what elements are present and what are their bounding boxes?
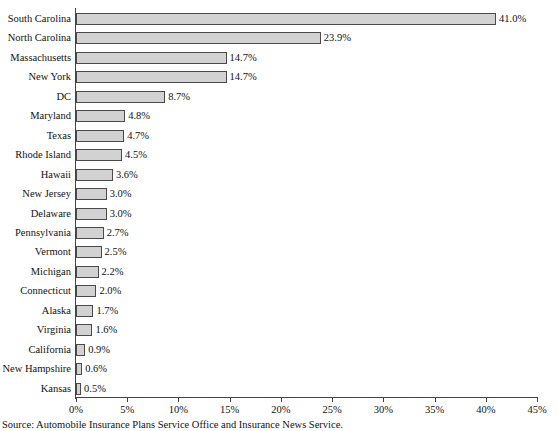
bar-rect — [76, 305, 93, 317]
bar-rect — [76, 363, 82, 375]
x-axis-tick-label: 40% — [466, 403, 506, 416]
source-note: Source: Automobile Insurance Plans Servi… — [2, 418, 343, 431]
bar-rect — [76, 266, 99, 278]
bar-row: North Carolina23.9% — [76, 29, 537, 49]
bar-category-label: Alaska — [0, 304, 71, 318]
bar-category-label: South Carolina — [0, 12, 71, 26]
bar-rect — [76, 52, 227, 64]
bar-value-label: 3.0% — [110, 187, 132, 201]
bar-category-label: Vermont — [0, 245, 71, 259]
bar-value-label: 4.7% — [127, 129, 149, 143]
bar-row: New Hampshire0.6% — [76, 360, 537, 380]
bar-value-label: 3.0% — [110, 207, 132, 221]
bar-chart-figure: South Carolina41.0%North Carolina23.9%Ma… — [0, 0, 557, 431]
bar-row: Connecticut2.0% — [76, 282, 537, 302]
bar-row: California0.9% — [76, 341, 537, 361]
bar-value-label: 2.5% — [105, 245, 127, 259]
bar-row: Alaska1.7% — [76, 302, 537, 322]
bar-value-label: 0.9% — [88, 343, 110, 357]
bar-category-label: Delaware — [0, 207, 71, 221]
bar-row: Kansas0.5% — [76, 380, 537, 400]
bar-row: Michigan2.2% — [76, 263, 537, 283]
bar-category-label: Kansas — [0, 382, 71, 396]
x-axis-tick — [281, 397, 282, 402]
x-axis-tick — [486, 397, 487, 402]
x-axis-tick-label: 10% — [158, 403, 198, 416]
x-axis-tick — [332, 397, 333, 402]
bar-value-label: 4.5% — [125, 148, 147, 162]
x-axis-tick — [230, 397, 231, 402]
bar-value-label: 3.6% — [116, 168, 138, 182]
bar-rect — [76, 169, 113, 181]
bar-value-label: 2.2% — [102, 265, 124, 279]
bar-value-label: 1.6% — [95, 323, 117, 337]
bar-category-label: Texas — [0, 129, 71, 143]
bar-category-label: New York — [0, 70, 71, 84]
bar-value-label: 14.7% — [230, 70, 257, 84]
x-axis-tick-label: 0% — [56, 403, 96, 416]
x-axis-tick-label: 20% — [261, 403, 301, 416]
bar-row: New Jersey3.0% — [76, 185, 537, 205]
bar-rect — [76, 344, 85, 356]
bar-row: New York14.7% — [76, 68, 537, 88]
x-axis-tick-label: 25% — [312, 403, 352, 416]
bar-row: Maryland4.8% — [76, 107, 537, 127]
bar-value-label: 41.0% — [499, 12, 526, 26]
bar-value-label: 23.9% — [324, 31, 351, 45]
x-axis-tick — [435, 397, 436, 402]
x-axis-tick — [76, 397, 77, 402]
bar-rect — [76, 13, 496, 25]
plot-area: South Carolina41.0%North Carolina23.9%Ma… — [76, 10, 537, 397]
bar-rect — [76, 71, 227, 83]
bar-value-label: 0.5% — [84, 382, 106, 396]
bar-value-label: 2.0% — [99, 284, 121, 298]
bar-value-label: 2.7% — [107, 226, 129, 240]
bar-value-label: 8.7% — [168, 90, 190, 104]
bar-rect — [76, 91, 165, 103]
bar-rect — [76, 324, 92, 336]
bar-rect — [76, 110, 125, 122]
bar-row: DC8.7% — [76, 88, 537, 108]
bar-category-label: Connecticut — [0, 284, 71, 298]
x-axis-tick-label: 30% — [363, 403, 403, 416]
bar-value-label: 1.7% — [96, 304, 118, 318]
bar-row: South Carolina41.0% — [76, 10, 537, 30]
bar-rect — [76, 285, 96, 297]
bar-row: Hawaii3.6% — [76, 166, 537, 186]
bar-category-label: Maryland — [0, 109, 71, 123]
bar-row: Texas4.7% — [76, 127, 537, 147]
bar-row: Pennsylvania2.7% — [76, 224, 537, 244]
bar-category-label: DC — [0, 90, 71, 104]
bar-category-label: New Hampshire — [0, 362, 71, 376]
x-axis-tick — [178, 397, 179, 402]
bar-row: Virginia1.6% — [76, 321, 537, 341]
bar-row: Delaware3.0% — [76, 205, 537, 225]
bar-rect — [76, 227, 104, 239]
bar-category-label: Hawaii — [0, 168, 71, 182]
bar-rect — [76, 130, 124, 142]
x-axis-tick — [127, 397, 128, 402]
x-axis-tick-label: 15% — [210, 403, 250, 416]
x-axis-tick — [537, 397, 538, 402]
bar-category-label: Pennsylvania — [0, 226, 71, 240]
bar-category-label: Rhode Island — [0, 148, 71, 162]
bar-row: Massachusetts14.7% — [76, 49, 537, 69]
bar-category-label: Michigan — [0, 265, 71, 279]
bar-category-label: North Carolina — [0, 31, 71, 45]
x-axis-tick — [383, 397, 384, 402]
chart-title — [0, 0, 557, 3]
bar-rect — [76, 383, 81, 395]
bar-rect — [76, 149, 122, 161]
bar-rect — [76, 208, 107, 220]
bar-value-label: 4.8% — [128, 109, 150, 123]
bar-rect — [76, 246, 102, 258]
bar-row: Rhode Island4.5% — [76, 146, 537, 166]
bar-category-label: Virginia — [0, 323, 71, 337]
bar-category-label: Massachusetts — [0, 51, 71, 65]
bar-value-label: 14.7% — [230, 51, 257, 65]
bar-rect — [76, 32, 321, 44]
x-axis-tick-label: 35% — [415, 403, 455, 416]
bar-category-label: California — [0, 343, 71, 357]
x-axis-tick-label: 45% — [517, 403, 557, 416]
bar-rect — [76, 188, 107, 200]
